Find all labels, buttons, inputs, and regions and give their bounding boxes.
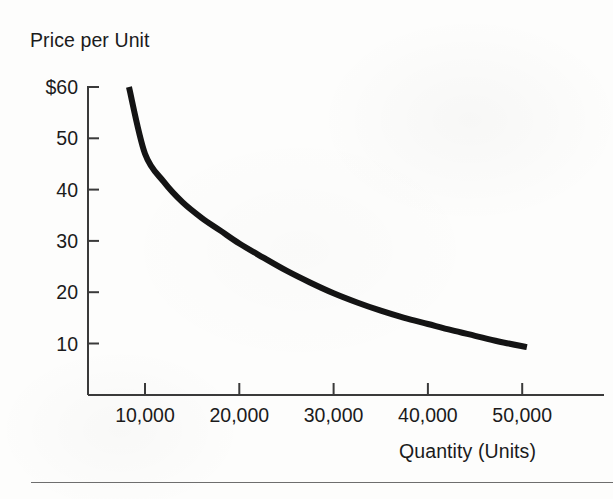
data-series-line bbox=[129, 87, 527, 347]
y-axis-ticks bbox=[88, 87, 99, 344]
footer-rule bbox=[31, 482, 613, 483]
x-axis-ticks bbox=[145, 383, 522, 395]
data-series-group bbox=[129, 87, 527, 347]
demand-curve-figure: Price per Unit 1020304050$60 10,00020,00… bbox=[0, 0, 613, 499]
x-axis-title: Quantity (Units) bbox=[399, 440, 536, 463]
plot-area bbox=[0, 0, 613, 499]
axis-lines bbox=[88, 86, 604, 395]
